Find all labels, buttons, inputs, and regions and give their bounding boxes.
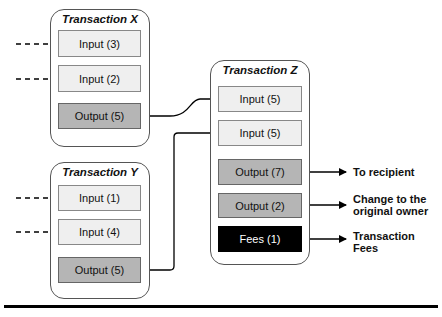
transaction-y-input-2: Input (4) [58,219,141,245]
connector-x-to-z [141,99,217,116]
transaction-z-fees: Fees (1) [218,226,302,252]
transaction-z-input-2: Input (5) [218,120,302,146]
transaction-z-output-2: Output (2) [218,193,302,218]
transaction-z-input-1: Input (5) [218,86,302,112]
transaction-x-input-1: Input (3) [58,30,141,57]
bottom-rule [4,305,438,308]
label-change-line1: Change to the [353,193,428,205]
label-change-line2: original owner [353,205,428,217]
transaction-z-title: Transaction Z [211,64,309,76]
connector-y-to-z [141,133,217,270]
transaction-y-input-1: Input (1) [58,185,141,211]
transaction-x-title: Transaction X [51,13,149,25]
label-transaction-fees: Transaction Fees [353,230,415,254]
transaction-y-title: Transaction Y [51,166,149,178]
transaction-x-input-2: Input (2) [58,65,141,92]
label-to-recipient: To recipient [353,166,415,178]
transaction-y-output: Output (5) [58,257,141,283]
label-fees-line2: Fees [353,242,415,254]
label-to-recipient-text: To recipient [353,166,415,178]
transaction-x-output: Output (5) [58,103,141,129]
label-fees-line1: Transaction [353,230,415,242]
label-change-owner: Change to the original owner [353,193,428,217]
transaction-z-output-1: Output (7) [218,159,302,185]
